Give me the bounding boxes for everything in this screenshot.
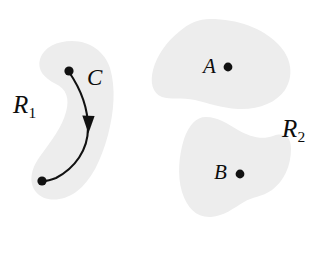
curve-end-dot	[37, 176, 46, 185]
region-2-label-subscript: 2	[298, 128, 306, 145]
point-b-label: B	[214, 162, 227, 183]
region-1-label: R1	[13, 92, 36, 117]
point-b-dot	[236, 170, 245, 179]
region-2-lower-blob	[179, 117, 291, 217]
curve-label: C	[87, 66, 102, 89]
curve-start-dot	[64, 66, 73, 75]
region-2-label: R2	[282, 116, 305, 141]
region-1-label-base: R	[13, 91, 28, 118]
region-1-label-subscript: 1	[29, 104, 37, 121]
region-2-label-base: R	[282, 115, 297, 142]
region-2-upper-blob	[152, 19, 291, 109]
figure-canvas: R1 R2 C A B	[0, 0, 319, 253]
point-a-label: A	[203, 56, 216, 77]
regions-diagram-svg	[0, 0, 319, 253]
point-a-dot	[224, 63, 233, 72]
